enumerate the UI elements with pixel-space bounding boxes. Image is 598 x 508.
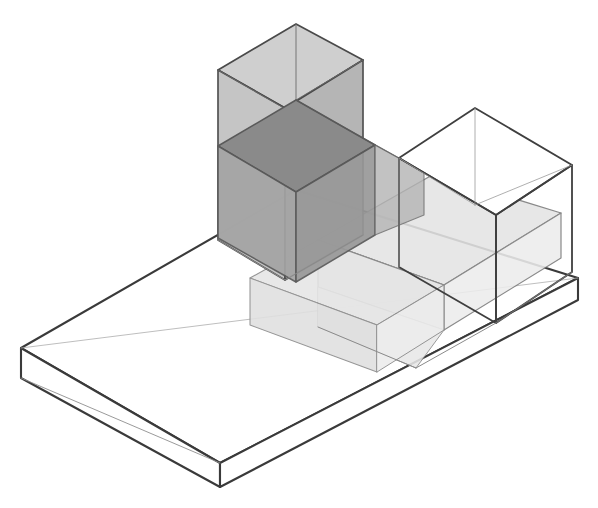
diagram-canvas (0, 0, 598, 508)
isometric-drawing (0, 0, 598, 508)
